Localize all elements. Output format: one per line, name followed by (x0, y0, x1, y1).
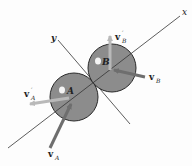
sphere-a-highlight (59, 87, 65, 94)
body-a-label: A (66, 86, 74, 96)
x-axis-line (8, 16, 180, 148)
body-b-label: B (101, 57, 110, 67)
x-axis-label: x (182, 7, 187, 17)
svg-text:v: v (23, 89, 30, 99)
collision-diagram: x y A B v A v B v A ′ v B ′ (0, 0, 192, 166)
v-a-label: v A (47, 149, 60, 161)
svg-text:′: ′ (122, 29, 124, 36)
diagram-svg: x y A B v A v B v A ′ v B ′ (0, 0, 192, 166)
v-a-prime-label: v A ′ (23, 86, 36, 101)
v-b-label: v B (148, 72, 161, 84)
svg-text:v: v (47, 149, 54, 159)
sphere-b-highlight (95, 58, 101, 65)
y-axis-label: y (50, 33, 57, 43)
svg-text:B: B (121, 37, 127, 44)
svg-text:′: ′ (31, 86, 33, 93)
v-b-prime-label: v B ′ (114, 29, 127, 44)
svg-text:v: v (114, 32, 121, 42)
svg-text:v: v (148, 72, 155, 82)
svg-text:A: A (30, 94, 36, 101)
svg-text:A: A (54, 154, 60, 161)
svg-text:B: B (155, 77, 161, 84)
